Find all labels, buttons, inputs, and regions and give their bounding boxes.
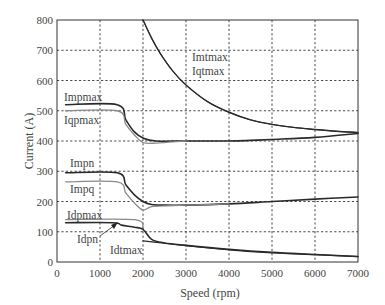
label-idpn: Idpn — [77, 233, 98, 246]
y-tick-label: 200 — [37, 196, 54, 208]
series-imtmax — [143, 20, 358, 133]
y-tick-label: 0 — [48, 256, 54, 268]
series-impmax — [66, 104, 358, 142]
x-tick-label: 0 — [54, 267, 60, 279]
y-axis-title: Current (A) — [22, 113, 36, 169]
label-impn: Impn — [70, 157, 95, 170]
label-iqpmax: Iqpmax — [64, 114, 99, 127]
label-imtmax: Imtmax — [192, 51, 228, 63]
label-impmax: Impmax — [64, 91, 103, 104]
x-tick-label: 5000 — [261, 267, 284, 279]
y-tick-label: 800 — [37, 14, 54, 26]
x-tick-label: 3000 — [175, 267, 198, 279]
x-tick-label: 6000 — [304, 267, 327, 279]
label-idtmax: Idtmax — [110, 244, 143, 256]
y-tick-label: 500 — [37, 105, 54, 117]
y-tick-label: 300 — [37, 165, 54, 177]
label-idpmax: Idpmax — [67, 209, 102, 222]
y-tick-label: 700 — [37, 44, 54, 56]
x-axis-title: Speed (rpm) — [180, 286, 240, 300]
x-tick-label: 2000 — [132, 267, 155, 279]
y-axis-ticks: 0100200300400500600700800 — [37, 14, 54, 268]
series-impn — [66, 172, 358, 205]
y-tick-label: 100 — [37, 226, 54, 238]
current-speed-chart: 01000200030004000500060007000 0100200300… — [0, 0, 385, 305]
x-tick-label: 7000 — [347, 267, 370, 279]
label-impq: Impq — [70, 183, 95, 196]
y-tick-label: 600 — [37, 75, 54, 87]
x-tick-label: 1000 — [89, 267, 112, 279]
x-axis-ticks: 01000200030004000500060007000 — [54, 267, 369, 279]
label-iqtmax: Iqtmax — [192, 65, 225, 78]
series-iqtmax — [143, 20, 358, 133]
x-tick-label: 4000 — [218, 267, 241, 279]
y-tick-label: 400 — [37, 135, 54, 147]
